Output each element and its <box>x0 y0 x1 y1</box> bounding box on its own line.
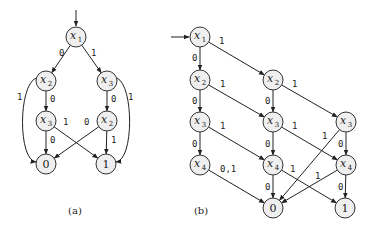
edge <box>116 78 130 162</box>
variable-subscript: 3 <box>275 121 279 129</box>
edge-label: 0 <box>50 94 55 104</box>
variable-node: x2 <box>97 111 117 131</box>
variable-label: x <box>101 73 108 86</box>
variable-node: x3 <box>36 111 56 131</box>
variable-node: x3 <box>336 112 356 132</box>
labels-layer: 0100010111(a)0101010101010,10110(b) <box>17 36 343 216</box>
edge-label: 0 <box>111 94 116 104</box>
variable-label: x <box>194 157 201 170</box>
figure-canvas: x1x2x3x3x201x1x2x2x3x3x3x4x4x401 0100010… <box>0 0 373 231</box>
edge <box>282 85 338 117</box>
edge-label: 0 <box>50 135 55 145</box>
edge <box>345 175 346 198</box>
variable-node: x4 <box>190 155 210 175</box>
variable-subscript: 4 <box>348 164 353 172</box>
variable-label: x <box>70 29 77 42</box>
edge-label: 1 <box>315 171 320 181</box>
variable-label: x <box>340 157 347 170</box>
variable-subscript: 2 <box>202 79 206 87</box>
variable-node: x2 <box>190 70 210 90</box>
variable-subscript: 1 <box>78 36 82 44</box>
variable-subscript: 2 <box>109 120 113 128</box>
edge-label: 0,1 <box>220 164 236 174</box>
edge-label: 0 <box>338 182 343 192</box>
terminal-node: 1 <box>335 198 355 218</box>
subfigure-caption: (a) <box>68 205 82 216</box>
variable-subscript: 2 <box>48 80 52 88</box>
bdd-diagrams: x1x2x3x3x201x1x2x2x3x3x3x4x4x401 0100010… <box>0 0 373 231</box>
edge-label: 1 <box>111 135 116 145</box>
edge-label: 1 <box>220 121 225 131</box>
variable-label: x <box>267 114 274 127</box>
edge <box>279 130 339 201</box>
variable-node: x3 <box>263 112 283 132</box>
variable-label: x <box>40 73 47 86</box>
edge-label: 0 <box>265 182 270 192</box>
variable-label: x <box>101 113 108 126</box>
edge-label: 1 <box>292 121 297 131</box>
edge-label: 0 <box>59 48 64 58</box>
edge <box>209 85 265 117</box>
edge-label: 1 <box>292 79 297 89</box>
terminal-node: 1 <box>96 154 116 174</box>
edge <box>106 131 107 154</box>
edge-label: 0 <box>265 139 270 149</box>
edge-label: 0 <box>265 96 270 106</box>
edge <box>209 42 265 75</box>
terminal-label: 0 <box>43 158 50 171</box>
edge-label: 0 <box>84 117 89 127</box>
variable-subscript: 1 <box>202 36 206 44</box>
subfigure-caption: (b) <box>194 205 208 216</box>
edge-label: 1 <box>290 164 295 174</box>
edge-label: 0 <box>338 139 343 149</box>
variable-subscript: 3 <box>202 121 206 129</box>
variable-node: x4 <box>263 155 283 175</box>
terminal-node: 0 <box>263 198 283 218</box>
variable-node: x3 <box>190 112 210 132</box>
edge <box>282 127 338 160</box>
edge <box>23 78 37 162</box>
edge <box>209 127 265 160</box>
variable-label: x <box>267 72 274 85</box>
terminal-node: 0 <box>36 154 56 174</box>
variable-node: x1 <box>190 27 210 47</box>
variable-subscript: 4 <box>202 164 207 172</box>
variable-label: x <box>194 114 201 127</box>
edge-label: 1 <box>219 36 224 46</box>
terminal-label: 0 <box>270 202 277 215</box>
variable-label: x <box>194 29 201 42</box>
variable-node: x1 <box>66 27 86 47</box>
terminal-label: 1 <box>342 202 349 215</box>
terminal-label: 1 <box>103 158 110 171</box>
variable-subscript: 3 <box>348 121 352 129</box>
edge-label: 1 <box>91 48 96 58</box>
variable-subscript: 4 <box>275 164 280 172</box>
variable-label: x <box>194 72 201 85</box>
edge-label: 1 <box>17 92 22 102</box>
variable-node: x4 <box>336 155 356 175</box>
edge-label: 1 <box>128 92 133 102</box>
variable-label: x <box>40 113 47 126</box>
variable-node: x3 <box>97 71 117 91</box>
edge-label: 0 <box>192 139 197 149</box>
variable-node: x2 <box>263 70 283 90</box>
variable-node: x2 <box>36 71 56 91</box>
edge-label: 1 <box>322 131 327 141</box>
variable-label: x <box>267 157 274 170</box>
variable-label: x <box>340 114 347 127</box>
edge-label: 1 <box>220 79 225 89</box>
edge <box>209 170 265 203</box>
edge-label: 0 <box>192 96 197 106</box>
variable-subscript: 2 <box>275 79 279 87</box>
variable-subscript: 3 <box>48 120 52 128</box>
variable-subscript: 3 <box>109 80 113 88</box>
edge-label: 0 <box>192 53 197 63</box>
edge-label: 1 <box>63 117 68 127</box>
